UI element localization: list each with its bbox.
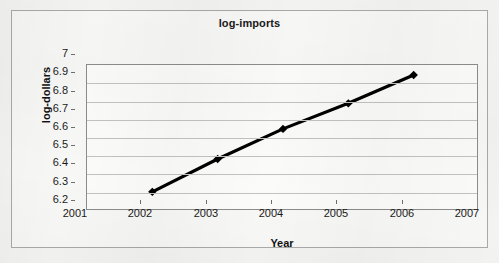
gridline-horizontal xyxy=(87,156,477,157)
x-tick-label: 2004 xyxy=(241,207,301,219)
y-tick-label: 6.8 xyxy=(15,84,68,96)
gridline-horizontal xyxy=(87,102,477,103)
y-tick-label: 6.5 xyxy=(15,138,68,150)
y-tick-label: 6.6 xyxy=(15,120,68,132)
x-tick-mark xyxy=(336,200,337,204)
x-tick-label: 2007 xyxy=(437,207,497,219)
y-tick-label: 7 xyxy=(15,47,68,59)
y-tick-mark xyxy=(71,54,75,55)
y-tick-label: 6.9 xyxy=(15,65,68,77)
plot-area xyxy=(86,64,478,210)
x-tick-mark xyxy=(140,200,141,204)
x-tick-label: 2003 xyxy=(176,207,236,219)
y-tick-mark xyxy=(71,200,75,201)
y-tick-mark xyxy=(71,127,75,128)
gridline-horizontal xyxy=(87,83,477,84)
y-tick-mark xyxy=(71,182,75,183)
x-tick-label: 2005 xyxy=(306,207,366,219)
gridline-horizontal xyxy=(87,120,477,121)
gridline-horizontal xyxy=(87,174,477,175)
x-tick-mark xyxy=(206,200,207,204)
x-axis-title: Year xyxy=(86,237,478,249)
x-tick-label: 2006 xyxy=(372,207,432,219)
y-tick-mark xyxy=(71,91,75,92)
chart-frame: log-imports log-dollars Year 6.26.36.46.… xyxy=(11,10,488,248)
y-tick-label: 6.7 xyxy=(15,102,68,114)
y-tick-label: 6.3 xyxy=(15,175,68,187)
gridline-horizontal xyxy=(87,193,477,194)
x-tick-mark xyxy=(271,200,272,204)
y-tick-label: 6.4 xyxy=(15,156,68,168)
y-tick-mark xyxy=(71,72,75,73)
x-tick-label: 2001 xyxy=(45,207,105,219)
y-tick-label: 6.2 xyxy=(15,193,68,205)
x-tick-mark xyxy=(402,200,403,204)
chart-title: log-imports xyxy=(12,17,487,29)
y-tick-mark xyxy=(71,109,75,110)
x-tick-label: 2002 xyxy=(110,207,170,219)
gridline-horizontal xyxy=(87,138,477,139)
y-tick-mark xyxy=(71,163,75,164)
y-tick-mark xyxy=(71,145,75,146)
